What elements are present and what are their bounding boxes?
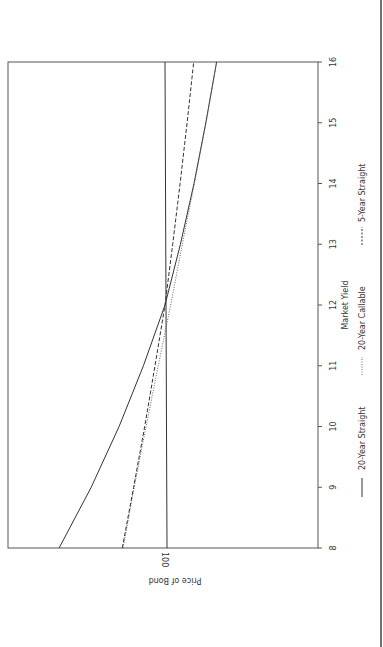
x-axis-label: Market Yield [341, 280, 350, 329]
legend-label-20-year-straight: 20-Year Straight [358, 406, 367, 470]
series-5-year-straight [122, 62, 193, 548]
x-tick-label: 10 [329, 421, 338, 431]
x-tick-label: 12 [329, 300, 338, 310]
legend-label-20-year-callable: 20-Year Callable [358, 286, 367, 350]
y-axis-label: Price of Bond [149, 576, 202, 585]
x-axis-ticks: 8910111213141516 [318, 57, 338, 551]
legend-label-5-year-straight: 5-Year Straight [358, 164, 367, 222]
x-tick-label: 15 [329, 118, 338, 128]
x-tick-label: 9 [329, 485, 338, 490]
x-tick-label: 16 [329, 57, 338, 67]
legend: 20-Year Straight 20-Year Callable 5-Year… [358, 164, 367, 497]
series-20-year-callable [123, 62, 217, 548]
x-tick-label: 11 [329, 361, 338, 371]
bond-price-chart: 8910111213141516 100 Price of Bond Marke… [0, 0, 383, 647]
x-tick-label: 8 [329, 545, 338, 550]
x-tick-label: 13 [329, 239, 338, 249]
plot-frame [8, 62, 318, 548]
series-20-year-straight [59, 62, 217, 548]
x-tick-label: 14 [329, 178, 338, 188]
y-tick-100: 100 [160, 552, 169, 567]
